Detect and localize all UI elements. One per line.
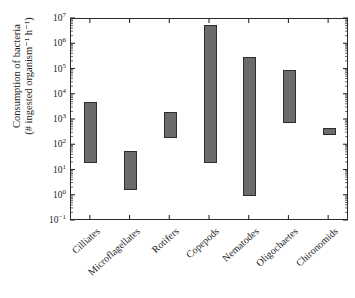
figure-canvas: Consumption of bacteria (# ingested orga… — [0, 0, 355, 298]
bar-rotifers — [164, 112, 177, 137]
y-axis-tick-labels: 10710610510410310210110010−1 — [38, 18, 66, 220]
bar-nematodes — [243, 57, 256, 195]
y-axis-tick-label: 101 — [40, 165, 66, 175]
y-axis-title-line-1: Consumption of bacteria — [11, 24, 23, 128]
y-axis-title: Consumption of bacteria (# ingested orga… — [3, 0, 43, 191]
y-axis-tick-label: 103 — [40, 114, 66, 124]
y-axis-tick-label: 104 — [40, 89, 66, 99]
y-axis-tick-label: 10−1 — [40, 215, 66, 225]
y-axis-tick-label: 102 — [40, 139, 66, 149]
plot-area — [70, 18, 348, 220]
x-axis-tick-label-text: Rotifers — [150, 224, 183, 255]
bar-microflagellates — [124, 151, 137, 190]
x-axis-tick-label-text: Cilliates — [70, 224, 104, 256]
x-axis-tick-labels: CilliatesMicroflagellatesRotifersCopepod… — [70, 220, 348, 298]
y-axis-tick-label: 100 — [40, 190, 66, 200]
x-axis-tick-label-text: Copepods — [184, 224, 223, 260]
bar-copepods — [204, 25, 217, 163]
y-axis-tick-label: 105 — [40, 64, 66, 74]
bars-layer — [71, 19, 347, 219]
bar-cilliates — [84, 102, 97, 163]
bar-oligochaetes — [283, 70, 296, 123]
y-axis-title-line-2: (# ingested organism⁻¹ h⁻¹) — [23, 17, 35, 135]
y-axis-tick-label: 107 — [40, 13, 66, 23]
y-axis-tick-label: 106 — [40, 38, 66, 48]
bar-chironomids — [323, 128, 336, 135]
